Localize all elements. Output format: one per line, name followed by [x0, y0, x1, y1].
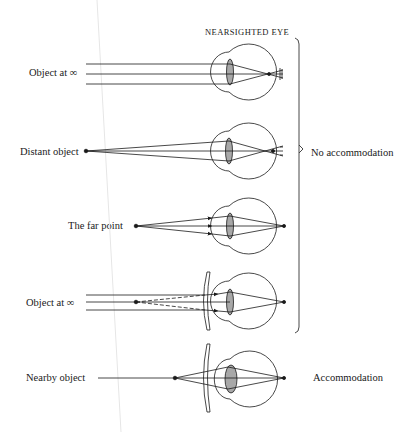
panel-far-point — [134, 198, 285, 254]
concave-lens — [204, 272, 211, 330]
brace — [295, 38, 303, 333]
diagram-canvas — [0, 0, 414, 432]
panel-distant-object — [84, 123, 283, 179]
panel-object-infinity — [86, 44, 283, 100]
panel-nearby-object — [98, 344, 286, 412]
panel-object-infinity-corrected — [86, 272, 286, 330]
